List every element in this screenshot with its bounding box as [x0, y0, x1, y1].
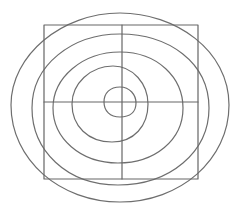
ring-4 — [72, 66, 148, 142]
diagram-canvas — [0, 0, 241, 214]
concentric-rings-diagram — [0, 0, 241, 214]
